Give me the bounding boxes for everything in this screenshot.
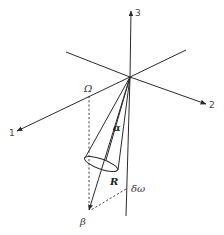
delta-omega-dashed bbox=[91, 189, 126, 210]
axis-1-label: 1 bbox=[9, 128, 15, 138]
plane-line-back-left bbox=[66, 52, 130, 77]
alpha-label: α bbox=[113, 122, 121, 133]
R-vector bbox=[89, 77, 130, 210]
axis-2-arrow bbox=[130, 77, 206, 104]
delta-omega-label: δω bbox=[131, 183, 145, 194]
axis-3-arrow bbox=[130, 11, 131, 77]
beta-label: β bbox=[79, 216, 86, 227]
axis-3-label: 3 bbox=[135, 8, 141, 18]
R-label: R bbox=[109, 176, 118, 187]
omega-line bbox=[126, 77, 130, 216]
omega-cap-label: Ω bbox=[83, 83, 92, 94]
plane-line-back-right bbox=[130, 50, 186, 77]
precession-cone-diagram: 3 2 1 Ω α R δω β bbox=[0, 0, 224, 235]
axis-2-label: 2 bbox=[209, 100, 215, 110]
